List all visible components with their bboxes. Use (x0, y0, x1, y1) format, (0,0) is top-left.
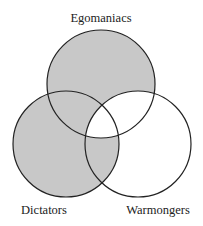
label-egomaniacs: Egomaniacs (70, 11, 131, 25)
venn-diagram: Egomaniacs Dictators Warmongers (0, 0, 203, 226)
label-dictators: Dictators (21, 203, 67, 217)
label-warmongers: Warmongers (126, 203, 190, 217)
